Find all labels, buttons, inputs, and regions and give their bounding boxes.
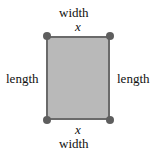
rectangle — [46, 36, 110, 120]
bottom-width-label: width — [59, 137, 89, 151]
vertex-bottom-left — [43, 116, 51, 124]
left-length-label: length — [6, 72, 39, 86]
vertex-top-left — [43, 32, 51, 40]
vertex-bottom-right — [106, 116, 114, 124]
top-x-label: x — [75, 20, 81, 34]
right-length-label: length — [117, 72, 150, 86]
vertex-top-right — [106, 32, 114, 40]
top-width-label: width — [59, 6, 89, 20]
bottom-x-label: x — [75, 123, 81, 137]
